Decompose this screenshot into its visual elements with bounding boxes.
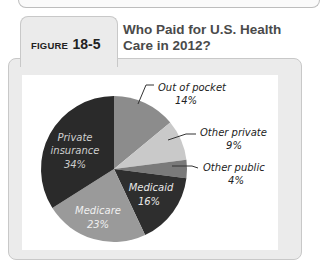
label-private-insurance-1: Private [57,132,92,143]
value-medicare: 23% [87,219,109,230]
value-private-insurance: 34% [64,159,86,170]
label-private-insurance-2: insurance [51,145,100,156]
label-medicaid: Medicaid [129,182,174,193]
value-medicaid: 16% [138,196,160,207]
label-other-public: Other public [203,162,265,173]
label-medicare: Medicare [75,205,121,216]
value-other-private: 9% [226,140,242,151]
label-other-private: Other private [200,127,267,138]
value-other-public: 4% [228,175,244,186]
label-out-of-pocket: Out of pocket [158,82,227,93]
value-out-of-pocket: 14% [175,95,197,106]
